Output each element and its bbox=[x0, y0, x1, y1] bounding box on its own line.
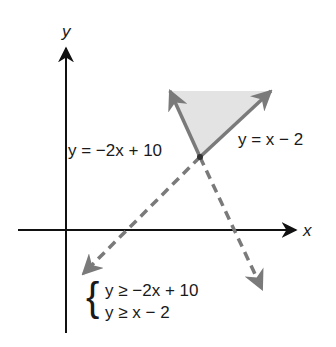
line-neg2x-plus-10-dashed bbox=[200, 157, 262, 289]
system-brace: { bbox=[86, 275, 99, 319]
line-x-minus-2-dashed bbox=[83, 157, 200, 274]
inequality-2: y ≥ x − 2 bbox=[105, 303, 170, 322]
label-line1: y = −2x + 10 bbox=[68, 141, 162, 160]
x-axis-label: x bbox=[302, 221, 312, 240]
label-line2: y = x − 2 bbox=[238, 130, 303, 149]
inequality-graph: y x y = −2x + 10 y = x − 2 { y ≥ −2x + 1… bbox=[0, 0, 336, 347]
vertex-point bbox=[197, 154, 203, 160]
y-axis-label: y bbox=[61, 22, 72, 41]
inequality-1: y ≥ −2x + 10 bbox=[105, 281, 198, 300]
